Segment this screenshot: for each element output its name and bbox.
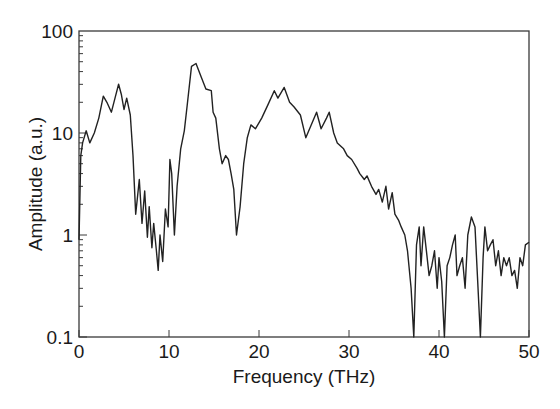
x-tick-label-50: 50 bbox=[518, 341, 539, 362]
x-major-ticks bbox=[79, 330, 529, 337]
x-tick-label-10: 10 bbox=[158, 341, 179, 362]
spectrum-chart: 100 10 1 0.1 0 10 20 30 40 50 Frequency … bbox=[0, 0, 560, 409]
y-tick-label-1: 1 bbox=[62, 225, 73, 246]
x-tick-label-20: 20 bbox=[248, 341, 269, 362]
x-tick-label-30: 30 bbox=[338, 341, 359, 362]
x-axis-title: Frequency (THz) bbox=[233, 366, 376, 387]
x-tick-label-40: 40 bbox=[428, 341, 449, 362]
plot-frame bbox=[79, 31, 529, 337]
amplitude-spectrum-line bbox=[79, 64, 529, 338]
y-tick-label-0.1: 0.1 bbox=[47, 327, 73, 348]
y-axis-title: Amplitude (a.u.) bbox=[25, 117, 46, 251]
y-tick-label-10: 10 bbox=[52, 123, 73, 144]
x-tick-label-0: 0 bbox=[74, 341, 85, 362]
y-tick-label-100: 100 bbox=[41, 21, 73, 42]
